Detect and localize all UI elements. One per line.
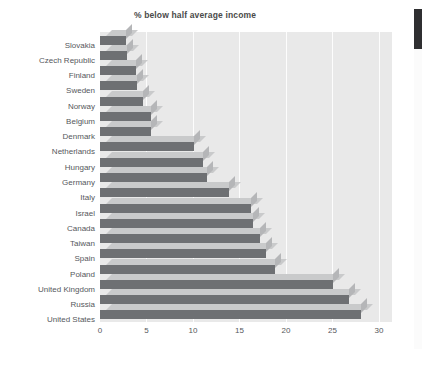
right-edge-marker (414, 9, 422, 49)
figure: % below half average income SlovakiaCzec… (0, 0, 425, 374)
category-label: Belgium (0, 117, 95, 126)
bar-side-face (266, 237, 272, 252)
bar-side-face (275, 253, 281, 268)
value-axis: 051015202530 (100, 326, 425, 346)
bar-front-face (100, 81, 137, 90)
bar-front-face (100, 204, 251, 213)
x-tick-label: 30 (375, 326, 384, 335)
bar-front-face (100, 295, 349, 304)
bar-front-face (100, 173, 207, 182)
category-label: Germany (0, 178, 95, 187)
bar-front-face (100, 188, 229, 197)
right-edge-strip (414, 49, 422, 349)
bar-side-face (137, 69, 143, 84)
chart-title: % below half average income (0, 10, 390, 20)
bar-side-face (127, 39, 133, 54)
category-label: Italy (0, 193, 95, 202)
category-label: Denmark (0, 132, 95, 141)
bar-front-face (100, 142, 194, 151)
bar-front-face (100, 234, 260, 243)
bar-side-face (361, 298, 367, 313)
category-label: Spain (0, 254, 95, 263)
bar-side-face (136, 54, 142, 69)
category-label: Czech Republic (0, 56, 95, 65)
bar-side-face (203, 146, 209, 161)
bar-front-face (100, 36, 126, 45)
category-label: Russia (0, 300, 95, 309)
bar-side-face (194, 130, 200, 145)
bar-side-face (151, 100, 157, 115)
category-label: Poland (0, 270, 95, 279)
bar-front-face (100, 127, 151, 136)
category-label: Slovakia (0, 41, 95, 50)
bar-front-face (100, 219, 253, 228)
bar-front-face (100, 158, 203, 167)
bar-side-face (260, 222, 266, 237)
bar-front-face (100, 51, 127, 60)
category-label: Finland (0, 71, 95, 80)
bar-side-face (349, 283, 355, 298)
bar-front-face (100, 112, 151, 121)
category-label: United States (0, 315, 95, 324)
category-label: Netherlands (0, 147, 95, 156)
x-tick-label: 0 (98, 326, 102, 335)
bar-front-face (100, 66, 136, 75)
category-label: Hungary (0, 163, 95, 172)
bar-side-face (333, 268, 339, 283)
bar-side-face (229, 176, 235, 191)
category-label: Taiwan (0, 239, 95, 248)
bar-side-face (253, 207, 259, 222)
bar-side-face (207, 161, 213, 176)
bar-front-face (100, 265, 275, 274)
category-label: United Kingdom (0, 285, 95, 294)
bar-side-face (143, 85, 149, 100)
x-tick-label: 15 (235, 326, 244, 335)
category-axis: SlovakiaCzech RepublicFinlandSwedenNorwa… (0, 32, 95, 322)
x-tick-label: 20 (282, 326, 291, 335)
bars-layer (100, 32, 425, 332)
bar-front-face (100, 249, 266, 258)
category-label: Canada (0, 224, 95, 233)
bar-side-face (151, 115, 157, 130)
bar-front-face (100, 310, 361, 319)
bar-front-face (100, 280, 333, 289)
bar-side-face (251, 192, 257, 207)
x-tick-label: 25 (328, 326, 337, 335)
category-label: Israel (0, 209, 95, 218)
x-tick-label: 5 (144, 326, 148, 335)
category-label: Norway (0, 102, 95, 111)
category-label: Sweden (0, 86, 95, 95)
bar-side-face (126, 24, 132, 39)
x-tick-label: 10 (189, 326, 198, 335)
bar-front-face (100, 97, 143, 106)
